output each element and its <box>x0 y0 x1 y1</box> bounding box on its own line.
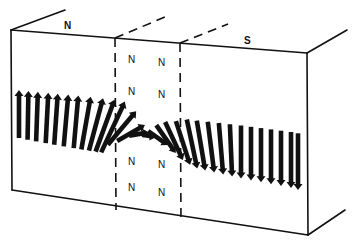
front-left-edge <box>11 30 12 190</box>
magnetization-arrow <box>32 92 43 142</box>
magnetization-arrow <box>50 93 63 145</box>
face-label-north: N <box>64 21 71 31</box>
magnetization-arrows <box>15 90 303 190</box>
front-right-edge <box>307 53 308 235</box>
magnetization-arrow <box>294 133 303 190</box>
wall-pole-label: N <box>128 157 135 167</box>
wall-pole-label: N <box>158 90 165 100</box>
magnetization-arrow <box>287 132 296 188</box>
magnetization-arrow <box>225 124 236 177</box>
wall-left-top-depth <box>115 17 165 38</box>
wall-pole-label: N <box>158 188 165 198</box>
wall-pole-label: N <box>128 55 135 65</box>
magnetization-arrow <box>41 92 53 143</box>
wall-pole-label: N <box>128 183 135 193</box>
wall-pole-label: N <box>128 87 135 97</box>
magnetization-arrow <box>237 126 246 179</box>
magnetization-arrow <box>23 91 33 140</box>
magnetization-arrow <box>257 128 266 182</box>
face-label-south: S <box>244 36 251 46</box>
magnetization-arrow <box>59 94 72 147</box>
magnetization-arrow <box>15 90 24 138</box>
back-left-top-edge <box>11 10 65 30</box>
domain-wall-diagram <box>0 0 353 252</box>
wall-pole-label: N <box>158 160 165 170</box>
magnetization-arrow <box>247 127 256 181</box>
back-right-bottom-edge <box>308 210 345 235</box>
wall-right-top-depth <box>180 24 228 43</box>
wall-pole-label: N <box>158 58 165 68</box>
front-top-edge <box>11 30 307 53</box>
magnetization-arrow <box>277 131 286 186</box>
magnetization-arrow <box>267 129 276 184</box>
back-right-top-edge <box>307 30 347 53</box>
